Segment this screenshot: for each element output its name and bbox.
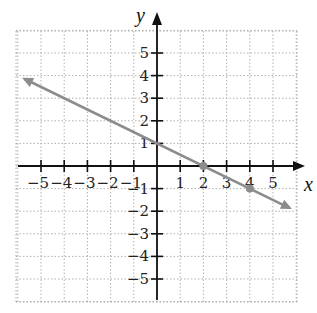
y-tick-label: 5 <box>139 44 149 62</box>
y-tick-label: −4 <box>127 247 149 265</box>
y-tick-label: −3 <box>127 225 149 243</box>
y-axis-arrow-icon <box>152 12 162 25</box>
x-tick-label: −4 <box>50 174 72 192</box>
x-axis-arrow-icon <box>293 161 305 171</box>
x-tick-label: 5 <box>268 174 278 192</box>
data-point <box>199 162 207 170</box>
x-tick-label: 1 <box>175 174 185 192</box>
x-tick-label: −5 <box>27 174 49 192</box>
x-tick-label: −2 <box>97 174 119 192</box>
y-tick-label: 3 <box>139 89 149 107</box>
y-tick-label: 4 <box>139 67 149 85</box>
coordinate-graph: −5−4−3−2−112345−5−4−3−2−112345 x y <box>0 0 317 313</box>
data-point <box>246 185 254 193</box>
x-tick-label: −3 <box>73 174 95 192</box>
y-tick-label: −5 <box>127 270 149 288</box>
y-tick-label: −1 <box>127 180 149 198</box>
y-tick-label: −2 <box>127 202 149 220</box>
x-axis-label: x <box>303 173 313 195</box>
y-axis-label: y <box>134 4 145 27</box>
x-tick-label: 2 <box>199 174 209 192</box>
y-tick-label: 2 <box>139 112 149 130</box>
